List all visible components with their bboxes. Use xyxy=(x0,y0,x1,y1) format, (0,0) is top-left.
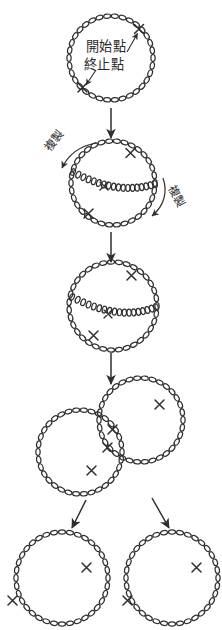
stage-1-parental-circle: 開始點 終止點 xyxy=(67,14,155,103)
cross-mark-s4-b1 xyxy=(155,400,164,409)
curved-arrow-replication-right xyxy=(152,178,165,216)
pointer-end-point-arrow xyxy=(86,70,96,85)
dna-replication-diagram: 開始點 終止點 複製 複製 xyxy=(0,0,222,630)
stage-5-daughter-circles xyxy=(8,530,220,626)
stage-4-catenated-circles xyxy=(36,376,185,497)
cross-mark-s5a-right xyxy=(82,563,91,572)
label-replication-left: 複製 xyxy=(41,127,66,154)
cross-mark-s5b-left xyxy=(123,596,132,605)
cross-mark-s4-a1 xyxy=(87,466,96,475)
arrow-stage4-to-left-circle xyxy=(72,500,86,528)
cross-mark-s5a-left xyxy=(8,596,17,605)
cross-mark-s3-top xyxy=(127,271,136,280)
cross-mark-s2-top xyxy=(126,149,135,158)
label-replication-right: 複製 xyxy=(165,183,188,210)
cross-mark-s5b-right xyxy=(192,563,201,572)
label-end-point: 終止點 xyxy=(84,57,124,72)
label-start-point: 開始點 xyxy=(86,39,126,54)
arrow-stage4-to-right-circle xyxy=(152,498,169,528)
stage-2-theta-early: 複製 複製 xyxy=(41,127,188,227)
pointer-start-point-arrow xyxy=(127,34,138,53)
stage-3-theta-late xyxy=(67,260,160,353)
cross-mark-s3-bottom xyxy=(89,331,98,340)
diagram-canvas: 開始點 終止點 複製 複製 xyxy=(0,0,222,630)
